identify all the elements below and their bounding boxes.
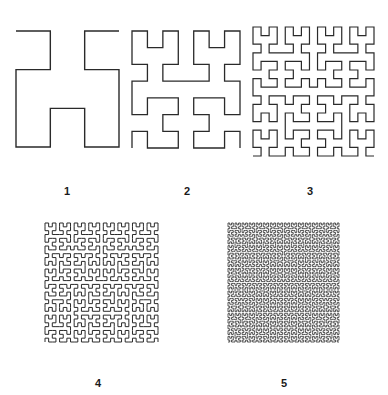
panel-label-2: 2: [184, 186, 190, 197]
hilbert-curve-5: [228, 223, 339, 342]
panel-label-3: 3: [307, 186, 313, 197]
hilbert-curve-3: [253, 27, 374, 156]
panel-label-4: 4: [95, 378, 101, 389]
panel-label-1: 1: [64, 186, 70, 197]
hilbert-curve-1: [16, 31, 119, 147]
hilbert-curve-2: [132, 31, 240, 148]
hilbert-figure: [0, 0, 388, 395]
hilbert-curve-4: [45, 223, 158, 342]
panel-label-5: 5: [281, 378, 287, 389]
